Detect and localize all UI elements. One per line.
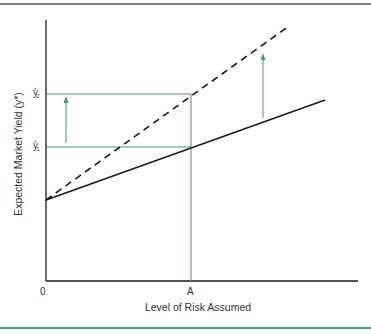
shifted-yield-line <box>46 26 289 200</box>
y-axis-label: Expected Market Yield (y*) <box>12 84 24 224</box>
y1-star-label: y*1 <box>33 140 40 152</box>
original-yield-line <box>46 100 325 200</box>
right-up-arrow <box>261 53 266 118</box>
chart-canvas <box>0 0 371 335</box>
y2-star-label: y*2 <box>33 87 40 99</box>
risk-yield-figure: Expected Market Yield (y*) Level of Risk… <box>0 0 371 335</box>
y2-sub: 2 <box>36 93 39 99</box>
x-axis-label: Level of Risk Assumed <box>0 301 371 313</box>
y1-sub: 1 <box>36 146 39 152</box>
left-up-arrow <box>64 96 69 143</box>
x-tick-a: A <box>187 286 194 297</box>
origin-label: 0 <box>40 286 46 297</box>
